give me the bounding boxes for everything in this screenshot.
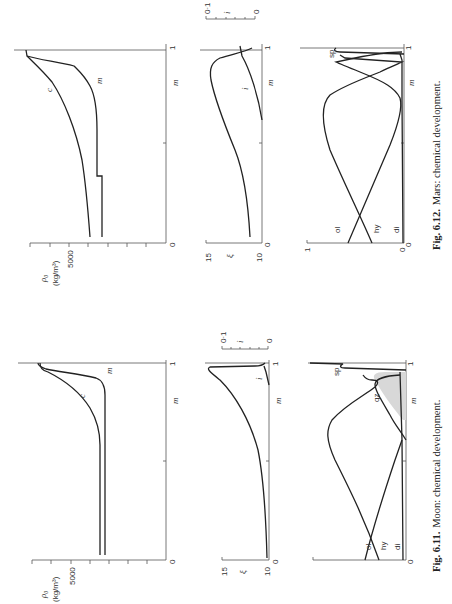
svg-text:1: 1: [263, 45, 272, 50]
svg-text:m: m: [170, 397, 180, 404]
svg-text:m: m: [265, 79, 275, 86]
svg-text:0: 0: [263, 242, 272, 247]
svg-text:5000: 5000: [68, 567, 77, 585]
svg-text:ξ: ξ: [225, 254, 235, 258]
curve-sp: [310, 363, 406, 370]
svg-text:(kg/m³): (kg/m³): [51, 576, 60, 602]
curve-m: [27, 56, 102, 237]
svg-text:i: i: [222, 11, 232, 14]
curve-c: [40, 363, 100, 555]
svg-text:0: 0: [398, 247, 407, 252]
svg-text:1: 1: [406, 361, 415, 366]
svg-text:c: c: [77, 394, 87, 398]
svg-text:0·1: 0·1: [203, 2, 212, 14]
svg-text:di: di: [392, 227, 401, 233]
svg-text:ρ₀: ρ₀: [38, 591, 48, 599]
svg-text:1: 1: [168, 361, 177, 366]
svg-text:i: i: [240, 87, 250, 90]
mars-xi-panel: i 0 1 m 15 ξ 10 0·1 i 0: [200, 2, 275, 262]
figure-moon: c m 0 1 m 5000 ρ₀ (kg/m³) i 0 1: [18, 331, 442, 602]
curve-xi: [210, 48, 252, 237]
svg-text:sp: sp: [327, 49, 336, 58]
svg-text:ol: ol: [333, 227, 342, 233]
svg-text:m: m: [273, 397, 283, 404]
tick-5000: 5000: [66, 250, 75, 268]
svg-text:0: 0: [265, 338, 274, 343]
curve-label-c: c: [44, 88, 54, 92]
y-axis-unit: (kg/m³): [51, 260, 60, 286]
svg-text:i: i: [235, 340, 245, 343]
caption-mars: Fig. 6.12.Mars: chemical development.: [431, 81, 442, 250]
curve-sp: [335, 48, 404, 54]
curve-xi: [208, 363, 267, 558]
svg-text:1: 1: [404, 45, 413, 50]
curve-ol: [336, 52, 402, 243]
svg-text:i: i: [254, 377, 264, 380]
svg-text:ξ: ξ: [238, 570, 248, 574]
svg-text:0·1: 0·1: [219, 331, 228, 343]
moon-density-panel: c m 0 1 m 5000 ρ₀ (kg/m³): [18, 360, 180, 602]
svg-text:10: 10: [263, 567, 272, 576]
svg-text:m: m: [408, 397, 418, 404]
mars-minerals-panel: ol hy di sp 0 1 m 1 0: [300, 44, 416, 252]
figure-mars: c m 0 1 m 5000 ρ₀ (kg/m³) i: [14, 2, 442, 286]
curve-c: [26, 50, 90, 237]
svg-text:1: 1: [303, 247, 312, 252]
svg-text:m: m: [104, 367, 114, 374]
svg-text:ol: ol: [364, 544, 373, 550]
svg-text:0: 0: [252, 9, 261, 14]
caption-moon: Fig. 6.11.Moon: chemical development.: [431, 400, 442, 572]
moon-minerals-panel: ol hy di qz sp 0 1 m: [308, 360, 418, 564]
svg-text:0: 0: [271, 559, 280, 564]
x-axis-label: m: [170, 79, 180, 86]
book-page-rotated: c m 0 1 m 5000 ρ₀ (kg/m³) i: [0, 0, 452, 604]
curve-i: [264, 366, 269, 385]
svg-text:0: 0: [168, 559, 177, 564]
svg-text:m: m: [406, 79, 416, 86]
svg-text:0: 0: [404, 242, 413, 247]
x-tick-1: 1: [168, 45, 177, 50]
svg-text:10: 10: [255, 253, 264, 262]
curve-i: [240, 46, 262, 120]
mars-density-panel: c m 0 1 m 5000 ρ₀ (kg/m³): [14, 44, 180, 286]
x-tick-0: 0: [168, 242, 177, 247]
svg-text:15: 15: [204, 253, 213, 262]
svg-text:hy: hy: [372, 225, 381, 233]
curve-label-m: m: [94, 77, 104, 84]
y-axis-symbol: ρ₀: [38, 275, 48, 283]
curve-m: [38, 363, 105, 555]
curve-di: [400, 54, 403, 243]
curve-hy: [323, 55, 402, 243]
svg-text:0: 0: [406, 559, 415, 564]
svg-text:sp: sp: [332, 367, 341, 376]
svg-text:qz: qz: [372, 394, 381, 402]
svg-text:di: di: [393, 544, 402, 550]
moon-xi-panel: i 0 1 m 15 ξ 10 0·1 i 0: [205, 331, 283, 576]
svg-text:1: 1: [271, 361, 280, 366]
svg-text:15: 15: [220, 567, 229, 576]
svg-text:hy: hy: [379, 542, 388, 550]
